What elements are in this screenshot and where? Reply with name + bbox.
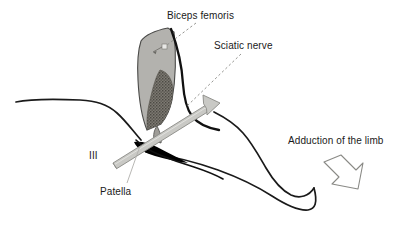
muscle-leader-marker bbox=[162, 44, 167, 49]
label-adduction-of-the-limb: Adduction of the limb bbox=[288, 136, 384, 146]
thigh-upper-contour bbox=[214, 112, 314, 197]
adduction-arrow bbox=[324, 155, 363, 189]
anatomical-figure: Biceps femoris Sciatic nerve Adduction o… bbox=[0, 0, 401, 229]
leader-sciatic-nerve bbox=[186, 54, 241, 107]
adduction-arrow-outline bbox=[324, 155, 363, 189]
label-patella: Patella bbox=[100, 187, 131, 197]
limb-lower-contour bbox=[146, 152, 316, 210]
trunk-contour bbox=[16, 99, 141, 140]
figure-canvas bbox=[0, 0, 401, 229]
label-biceps-femoris: Biceps femoris bbox=[167, 11, 234, 21]
label-section-marker: III bbox=[89, 151, 98, 161]
label-sciatic-nerve: Sciatic nerve bbox=[214, 41, 273, 51]
biceps-femoris-muscle bbox=[138, 28, 176, 143]
